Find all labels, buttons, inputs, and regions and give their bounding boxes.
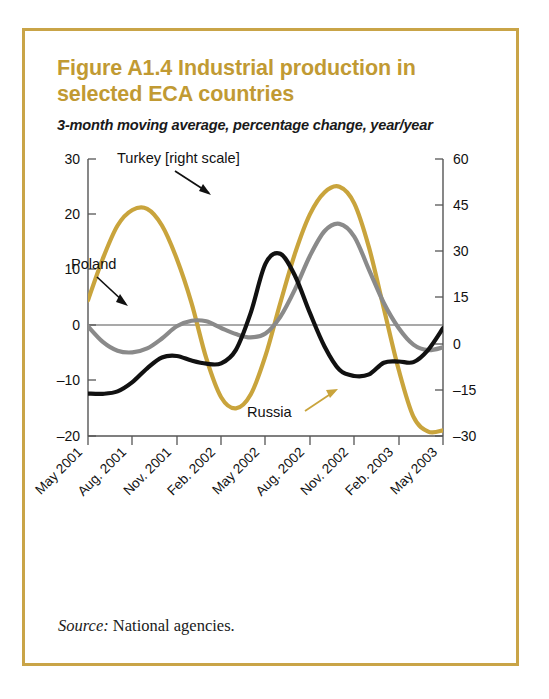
right-axis-labels: 60 45 30 15 0 –15 –30 [453, 151, 477, 444]
annotation-turkey: Turkey [right scale] [117, 150, 240, 195]
x-tick-label-1: Aug. 2001 [75, 445, 129, 499]
figure-subtitle: 3-month moving average, percentage chang… [57, 117, 497, 133]
right-tick-label-6: –30 [453, 428, 477, 444]
annotation-russia: Russia [247, 389, 338, 420]
line-chart: 30 20 10 0 –10 –20 60 45 30 1 [25, 141, 522, 561]
chart-plot-area: 30 20 10 0 –10 –20 60 45 30 1 [25, 141, 522, 561]
annotation-label-russia: Russia [247, 404, 292, 420]
figure-card: Figure A1.4 Industrial production in sel… [22, 28, 519, 666]
figure-title: Figure A1.4 Industrial production in sel… [57, 55, 477, 107]
source-text: National agencies. [109, 616, 235, 635]
right-tick-label-5: –15 [453, 382, 477, 398]
x-tick-label-3: Feb. 2002 [164, 445, 218, 499]
source-prefix: Source: [58, 616, 109, 635]
x-tick-label-5: Aug. 2002 [253, 445, 307, 499]
right-tick-label-4: 0 [453, 336, 461, 352]
annotation-label-poland: Poland [71, 256, 116, 272]
source-note: Source: National agencies. [58, 616, 235, 636]
right-tick-label-0: 60 [453, 151, 469, 167]
annotation-label-turkey: Turkey [right scale] [117, 150, 240, 166]
right-tick-label-3: 15 [453, 289, 469, 305]
axis-frame [88, 159, 443, 436]
x-tick-label-8: May 2003 [387, 445, 440, 498]
x-tick-label-7: Feb. 2003 [342, 445, 396, 499]
right-axis-ticks [435, 159, 443, 436]
x-axis-labels: May 2001 Aug. 2001 Nov. 2001 Feb. 2002 M… [32, 445, 440, 499]
left-tick-label-3: 0 [72, 317, 80, 333]
left-tick-label-0: 30 [64, 151, 80, 167]
left-tick-label-1: 20 [64, 206, 80, 222]
left-tick-label-4: –10 [57, 372, 81, 388]
x-tick-label-6: Nov. 2002 [297, 445, 351, 499]
x-axis-ticks [88, 436, 443, 445]
right-tick-label-2: 30 [453, 243, 469, 259]
series-line-russia [88, 186, 443, 432]
right-tick-label-1: 45 [453, 197, 469, 213]
annotation-poland: Poland [71, 256, 128, 306]
left-tick-label-5: –20 [57, 428, 81, 444]
left-axis-labels: 30 20 10 0 –10 –20 [57, 151, 81, 444]
series-line-turkey [88, 253, 443, 394]
